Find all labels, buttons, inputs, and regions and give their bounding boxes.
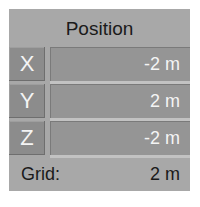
x-value-field[interactable]: -2 m — [50, 47, 190, 81]
axis-row-z: Z -2 m — [9, 121, 190, 155]
grid-row: Grid: 2 m — [9, 157, 190, 191]
position-panel: Position X -2 m Y 2 m Z -2 m Grid: 2 m — [9, 9, 190, 191]
axis-row-x: X -2 m — [9, 47, 190, 81]
grid-value[interactable]: 2 m — [150, 157, 180, 191]
axis-label-z[interactable]: Z — [9, 121, 45, 155]
panel-title: Position — [9, 9, 190, 47]
axis-label-x[interactable]: X — [9, 47, 45, 81]
z-value-field[interactable]: -2 m — [50, 121, 190, 155]
axis-row-y: Y 2 m — [9, 84, 190, 118]
axis-label-y[interactable]: Y — [9, 84, 45, 118]
grid-label: Grid: — [21, 157, 60, 191]
y-value-field[interactable]: 2 m — [50, 84, 190, 118]
